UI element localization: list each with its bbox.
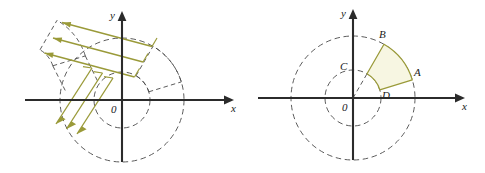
radius-guide-right <box>353 74 367 98</box>
point-label-D: D <box>381 89 390 101</box>
point-label-B: B <box>379 28 386 40</box>
origin-label-left: 0 <box>111 103 117 115</box>
y-axis-label-left: y <box>109 9 115 21</box>
figure-svg: x y 0 B A C D x y 0 <box>0 0 485 173</box>
translation-arrow <box>62 22 157 47</box>
y-axis-arrowhead-right <box>349 9 358 19</box>
origin-label-right: 0 <box>342 101 348 113</box>
point-label-C: C <box>340 60 348 72</box>
point-label-A: A <box>413 66 421 78</box>
translation-arrow <box>56 67 92 124</box>
x-axis-label-right: x <box>461 100 467 112</box>
source-sector-outline-left <box>136 46 181 92</box>
y-axis-label-right: y <box>340 7 346 19</box>
annulus-sector-ABCD <box>367 44 412 90</box>
x-axis-label-left: x <box>230 102 236 114</box>
translation-arrows-left <box>45 22 158 134</box>
right-panel: B A C D x y 0 <box>258 7 467 160</box>
y-axis-arrowhead-left <box>118 11 127 21</box>
left-panel: x y 0 <box>25 9 236 162</box>
figure-root: x y 0 B A C D x y 0 <box>0 0 485 173</box>
translation-arrow <box>45 53 140 78</box>
